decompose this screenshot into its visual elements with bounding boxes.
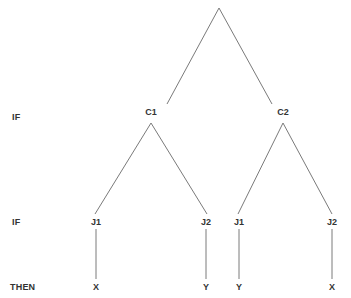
tree-node-leaf-x2: X (329, 282, 335, 292)
tree-edge (283, 123, 332, 214)
tree-node-j1a: J1 (91, 217, 101, 227)
tree-node-j2a: J2 (201, 217, 211, 227)
tree-edge (219, 8, 272, 104)
tree-edge (167, 8, 219, 104)
tree-node-c2: C2 (277, 107, 289, 117)
tree-node-leaf-x1: X (93, 282, 99, 292)
tree-node-c1: C1 (145, 107, 157, 117)
tree-node-leaf-y1: Y (203, 282, 209, 292)
tree-edge (238, 123, 283, 214)
tree-node-leaf-y2: Y (236, 282, 242, 292)
tree-node-j2b: J2 (327, 217, 337, 227)
tree-edge (95, 123, 151, 214)
row-label-row-if-2: IF (12, 217, 20, 227)
row-label-row-if-1: IF (12, 112, 20, 122)
tree-node-j1b: J1 (234, 217, 244, 227)
row-label-row-then: THEN (10, 282, 35, 292)
tree-edge (151, 123, 207, 214)
tree-edges-layer (0, 0, 351, 298)
decision-tree-diagram: IFIFTHEN C1C2J1J2J1J2XYYX (0, 0, 351, 298)
edges-group (95, 8, 332, 279)
